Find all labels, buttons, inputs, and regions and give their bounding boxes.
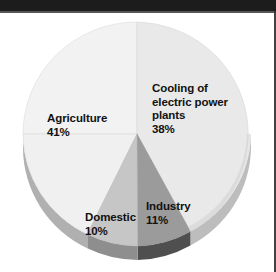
slice-label-domestic: Domestic 10% xyxy=(85,211,136,238)
slice-label-domestic-percent: 10% xyxy=(85,225,136,239)
slice-label-industry-name: Industry xyxy=(146,200,191,212)
top-black-bar xyxy=(0,0,276,11)
slice-label-industry-percent: 11% xyxy=(146,214,191,228)
slice-label-cooling-line3: plants xyxy=(152,109,185,121)
slice-label-cooling-percent: 38% xyxy=(152,123,228,137)
slice-label-cooling-line1: Cooling of xyxy=(152,82,208,94)
page-root: Agriculture 41% Cooling of electric powe… xyxy=(0,0,276,272)
slice-label-agriculture-name: Agriculture xyxy=(47,112,107,124)
pie-chart: Agriculture 41% Cooling of electric powe… xyxy=(0,13,274,272)
slice-label-domestic-name: Domestic xyxy=(85,211,136,223)
slice-label-cooling: Cooling of electric power plants 38% xyxy=(152,82,228,136)
slice-label-agriculture: Agriculture 41% xyxy=(47,112,107,139)
slice-label-industry: Industry 11% xyxy=(146,200,191,227)
slice-label-agriculture-percent: 41% xyxy=(47,126,107,140)
slice-label-cooling-line2: electric power xyxy=(152,96,228,108)
pie-chart-svg xyxy=(0,13,276,272)
